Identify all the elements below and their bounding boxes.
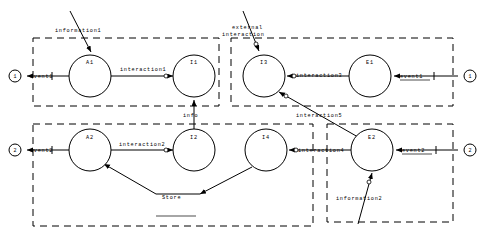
edge-store-out — [104, 164, 156, 194]
node-A1-label: A1 — [86, 60, 94, 66]
node-A1[interactable]: A1 — [69, 55, 111, 97]
node-I3-label: I3 — [260, 60, 268, 66]
label-event1-left: event1 — [30, 74, 53, 80]
label-store: Store — [162, 195, 181, 201]
node-I1[interactable]: I1 — [173, 55, 215, 97]
diagram-canvas: A1 I1 I3 E1 A2 I2 — [0, 0, 486, 242]
edge-external-interaction-socket — [254, 42, 258, 46]
label-interaction1: interaction1 — [120, 67, 166, 73]
label-interaction3: interaction3 — [296, 73, 342, 79]
edge-interaction5-socket — [284, 94, 288, 98]
node-E1[interactable]: E1 — [349, 55, 391, 97]
edge-labels: event1 interaction1 external interaction… — [30, 25, 425, 202]
node-I2-label: I2 — [190, 135, 198, 141]
port-right-2-label: 2 — [468, 148, 471, 154]
port-left-2[interactable]: 2 — [9, 144, 21, 156]
label-event1-right: event1 — [400, 74, 423, 80]
node-A2-label: A2 — [86, 135, 94, 141]
label-external: external — [232, 25, 263, 31]
label-event2-left: event2 — [30, 148, 53, 154]
label-interaction5: interaction5 — [296, 113, 342, 119]
port-left-1[interactable]: 1 — [9, 70, 21, 82]
node-I3[interactable]: I3 — [243, 55, 285, 97]
node-E1-label: E1 — [366, 60, 374, 66]
edge-store-in — [200, 167, 252, 194]
node-I2[interactable]: I2 — [173, 129, 215, 171]
node-E2[interactable]: E2 — [351, 129, 393, 171]
node-E2-label: E2 — [368, 135, 376, 141]
edge-interaction2-socket — [164, 148, 168, 152]
node-A2[interactable]: A2 — [69, 129, 111, 171]
port-left-1-label: 1 — [13, 74, 16, 80]
node-I1-label: I1 — [190, 60, 198, 66]
port-right-1[interactable]: 1 — [464, 70, 476, 82]
label-event2-right: event2 — [402, 148, 425, 154]
edge-interaction1-socket — [164, 74, 168, 78]
interaction-diagram: A1 I1 I3 E1 A2 I2 — [0, 0, 486, 242]
edge-information2-socket — [367, 180, 371, 184]
label-info: info — [183, 113, 198, 119]
node-I4-label: I4 — [262, 135, 270, 141]
label-information1: information1 — [55, 28, 101, 34]
label-interaction: interaction — [222, 32, 265, 38]
node-I4[interactable]: I4 — [245, 129, 287, 171]
label-information2: information2 — [336, 196, 382, 202]
label-interaction4: interaction4 — [298, 148, 344, 154]
port-left-2-label: 2 — [13, 148, 16, 154]
port-right-1-label: 1 — [468, 74, 471, 80]
port-right-2[interactable]: 2 — [464, 144, 476, 156]
label-interaction2: interaction2 — [119, 142, 165, 148]
